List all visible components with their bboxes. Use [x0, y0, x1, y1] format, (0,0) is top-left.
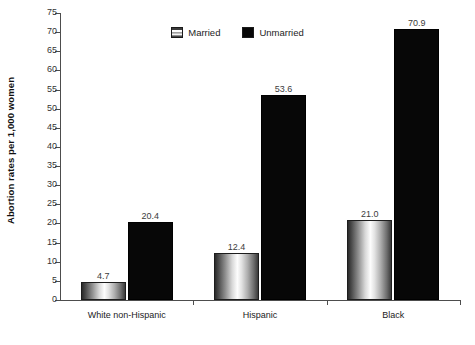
- bar-value-label: 21.0: [361, 209, 379, 219]
- y-tick-label: 75: [47, 7, 57, 17]
- chart-figure: Abortion rates per 1,000 women 051015202…: [0, 0, 475, 345]
- bar-unmarried: 70.9: [394, 29, 439, 300]
- y-tick-label: 55: [47, 84, 57, 94]
- y-tick-label: 45: [47, 122, 57, 132]
- bar-value-label: 12.4: [228, 242, 246, 252]
- bar-value-label: 20.4: [141, 211, 159, 221]
- plot-area: 051015202530354045505560657075 4.720.412…: [60, 13, 460, 300]
- y-tick-label: 10: [47, 256, 57, 266]
- x-axis-group-tick: [460, 300, 461, 305]
- y-axis-title-text: Abortion rates per 1,000 women: [6, 76, 17, 223]
- y-axis-title: Abortion rates per 1,000 women: [0, 0, 22, 300]
- y-tick-label: 30: [47, 179, 57, 189]
- x-axis-category-label: Hispanic: [243, 310, 278, 320]
- y-tick-label: 15: [47, 237, 57, 247]
- y-tick-label: 65: [47, 45, 57, 55]
- x-axis-line: [60, 300, 461, 301]
- bar-unmarried: 20.4: [128, 222, 173, 300]
- y-tick-label: 0: [52, 294, 57, 304]
- bar-married: 12.4: [214, 253, 259, 300]
- bar-unmarried: 53.6: [261, 95, 306, 300]
- y-tick-label: 40: [47, 141, 57, 151]
- x-axis-category-label: White non-Hispanic: [88, 310, 166, 320]
- x-axis-category-label: Black: [382, 310, 404, 320]
- bar-value-label: 4.7: [97, 271, 110, 281]
- y-tick-label: 25: [47, 198, 57, 208]
- y-tick-label: 5: [52, 275, 57, 285]
- bar-value-label: 70.9: [408, 18, 426, 28]
- x-axis-group-tick: [193, 300, 194, 305]
- y-tick-label: 50: [47, 103, 57, 113]
- caption-remnant: [0, 336, 475, 345]
- y-tick-label: 70: [47, 26, 57, 36]
- bar-married: 4.7: [81, 282, 126, 300]
- y-tick-label: 35: [47, 160, 57, 170]
- y-tick-label: 20: [47, 217, 57, 227]
- bar-married: 21.0: [347, 220, 392, 300]
- y-tick-label: 60: [47, 64, 57, 74]
- bar-value-label: 53.6: [275, 84, 293, 94]
- x-axis-group-tick: [327, 300, 328, 305]
